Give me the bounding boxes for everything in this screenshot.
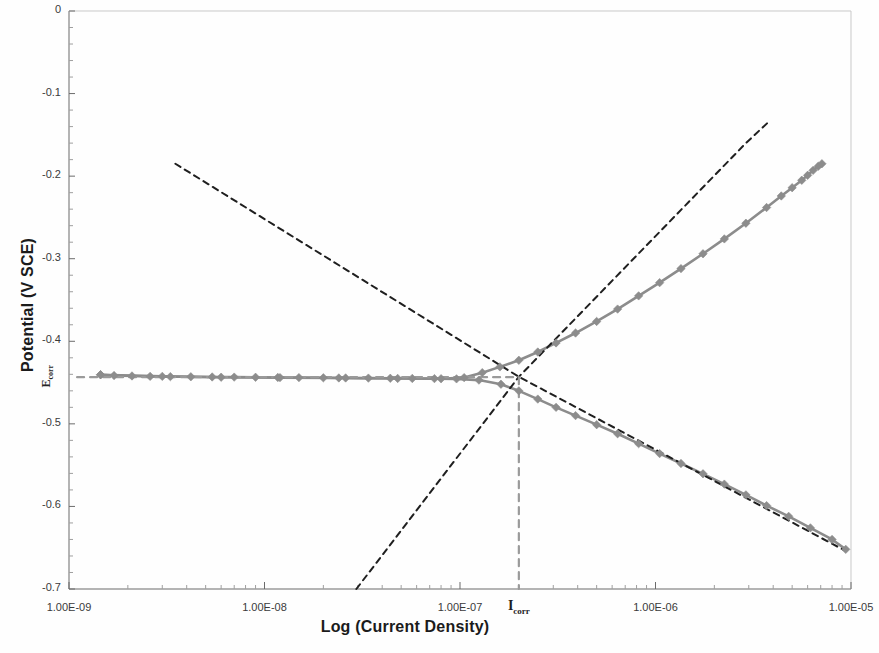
data-series-group [77, 122, 846, 589]
y-tick-label: -0.2 [15, 168, 61, 180]
axis-lines [69, 11, 851, 589]
y-tick-label: -0.7 [15, 581, 61, 593]
x-tick-label: 1.00E-05 [811, 601, 879, 613]
data-point-markers [96, 160, 850, 554]
y-tick-label: -0.1 [15, 86, 61, 98]
data-point-marker [634, 439, 642, 447]
data-point-marker [335, 374, 343, 382]
data-point-marker [251, 373, 259, 381]
icorr-annotation-label: Icorr [497, 598, 541, 616]
data-point-marker [437, 374, 445, 382]
ecorr-annotation-label: Ecorr [39, 356, 55, 396]
y-tick-label: -0.3 [15, 251, 61, 263]
data-point-marker [571, 411, 579, 419]
anodic-tafel-extrapolation [356, 122, 768, 589]
data-point-marker [217, 373, 225, 381]
data-point-marker [515, 356, 523, 364]
data-point-marker [515, 387, 523, 395]
data-point-marker [452, 375, 460, 383]
x-axis-title: Log (Current Density) [170, 618, 640, 636]
data-point-marker [393, 374, 401, 382]
icorr-subscript: corr [513, 606, 529, 616]
data-point-marker [230, 373, 238, 381]
data-point-marker [146, 372, 154, 380]
data-point-marker [158, 372, 166, 380]
data-point-marker [497, 380, 505, 388]
data-point-marker [208, 373, 216, 381]
data-point-marker [408, 374, 416, 382]
x-tick-label: 1.00E-09 [29, 601, 109, 613]
anodic-branch [101, 164, 822, 379]
x-tick-label: 1.00E-08 [225, 601, 305, 613]
x-tick-label: 1.00E-06 [616, 601, 696, 613]
ecorr-subscript: corr [46, 365, 55, 380]
plot-canvas [0, 0, 879, 653]
data-point-marker [319, 374, 327, 382]
data-point-marker [552, 403, 560, 411]
tafel-plot-figure: Potential (V SCE) Log (Current Density) … [0, 0, 879, 653]
ecorr-symbol: E [39, 379, 53, 387]
cathodic-branch [101, 375, 846, 550]
y-tick-label: -0.5 [15, 416, 61, 428]
data-point-marker [166, 372, 174, 380]
data-point-marker [534, 395, 542, 403]
data-point-marker [187, 373, 195, 381]
y-tick-label: 0 [15, 3, 61, 15]
y-tick-label: -0.6 [15, 498, 61, 510]
data-point-marker [478, 368, 486, 376]
data-point-marker [364, 374, 372, 382]
data-point-marker [295, 373, 303, 381]
y-tick-label: -0.4 [15, 333, 61, 345]
data-point-marker [110, 371, 118, 379]
y-axis-title: Potential (V SCE) [19, 215, 37, 395]
axis-tick-marks [69, 11, 851, 589]
x-tick-label: 1.00E-07 [420, 601, 500, 613]
data-point-marker [128, 372, 136, 380]
data-point-marker [592, 420, 600, 428]
